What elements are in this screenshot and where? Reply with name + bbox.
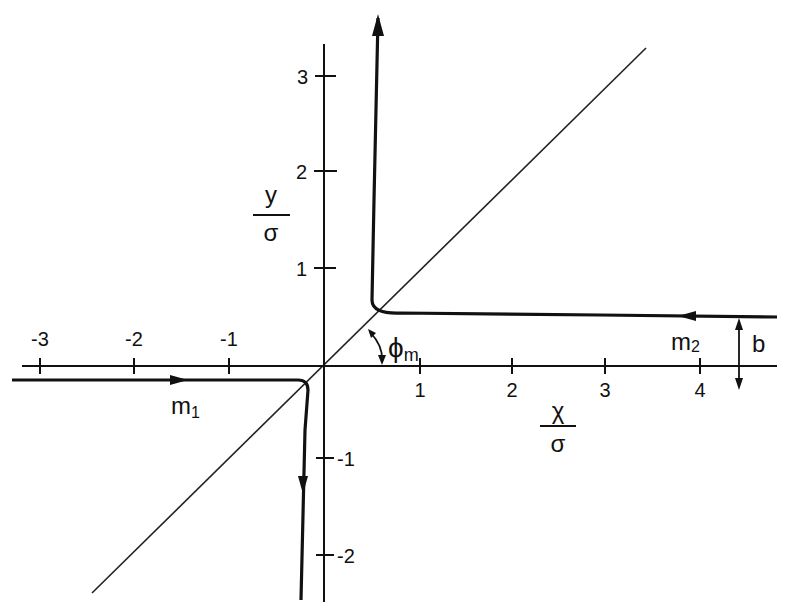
arrow-right-icon	[170, 375, 188, 385]
y-tick-label: -1	[337, 448, 355, 470]
x-tick-label: -2	[125, 328, 143, 350]
b-arrow-up-icon	[735, 318, 743, 330]
y-tick-label: 3	[297, 66, 308, 88]
trajectory-m1	[12, 380, 308, 600]
b-label: b	[752, 330, 765, 357]
x-axis-label: χ σ	[540, 397, 576, 457]
arrow-left-icon	[678, 311, 696, 321]
svg-text:σ: σ	[551, 430, 566, 457]
b-arrow-down-icon	[735, 378, 743, 390]
x-tick-label: -3	[31, 328, 49, 350]
arrow-up-icon	[372, 14, 384, 36]
m1-label: m1	[171, 392, 200, 421]
trajectory-m2	[372, 18, 777, 317]
y-axis-label: y σ	[253, 181, 290, 246]
y-ticks	[314, 76, 337, 555]
x-tick-label: 2	[506, 379, 517, 401]
y-tick-label: 2	[296, 161, 307, 183]
diagonal-line	[92, 48, 646, 593]
arc-arrowhead-icon	[378, 355, 386, 365]
x-tick-label: -1	[220, 328, 238, 350]
svg-text:σ: σ	[264, 219, 279, 246]
svg-text:y: y	[265, 181, 277, 208]
x-tick-label: 4	[694, 379, 705, 401]
x-tick-label: 1	[414, 379, 425, 401]
x-tick-label: 3	[599, 379, 610, 401]
y-tick-label: 1	[296, 258, 307, 280]
m2-label: m2	[671, 328, 700, 355]
y-tick-label: -2	[337, 545, 355, 567]
phi-label: ϕm	[388, 332, 419, 365]
arrow-down-icon	[298, 476, 308, 494]
svg-text:χ: χ	[552, 397, 565, 424]
trajectory-diagram: -3 -2 -1 1 2 3 4 3 2 1 -1 -2 y σ χ σ ϕm …	[0, 0, 787, 613]
